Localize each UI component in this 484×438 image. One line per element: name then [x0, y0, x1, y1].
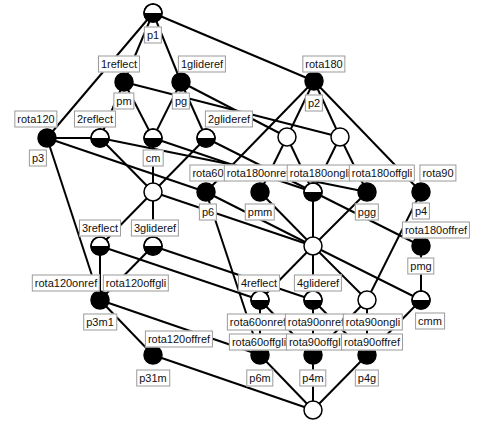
node-label: p31m	[136, 370, 170, 387]
node-half[interactable]	[144, 4, 162, 22]
node-label: rota90offref	[341, 334, 403, 351]
node-label: p4m	[299, 370, 326, 387]
node-label: rota120	[14, 111, 57, 128]
node-label: rota90	[419, 165, 456, 182]
node-label: pmm	[245, 204, 275, 221]
node-label: p2	[305, 95, 323, 112]
node-label: pmg	[407, 258, 434, 275]
node-black[interactable]	[197, 183, 215, 201]
node-black[interactable]	[91, 291, 109, 309]
node-black[interactable]	[38, 129, 56, 147]
node-label: p4	[412, 203, 430, 220]
node-white[interactable]	[304, 237, 322, 255]
node-white[interactable]	[331, 128, 349, 146]
node-half[interactable]	[91, 237, 109, 255]
node-label: p3m1	[83, 314, 117, 331]
node-label: rota90onref	[285, 314, 347, 331]
node-label: p1	[144, 27, 162, 44]
node-label: 1reflect	[98, 56, 140, 73]
node-label: pm	[113, 93, 134, 110]
node-half[interactable]	[304, 291, 322, 309]
node-half[interactable]	[412, 291, 430, 309]
edge	[153, 355, 313, 410]
node-label: 1glideref	[178, 56, 226, 73]
node-label: rota60	[189, 165, 226, 182]
node-label: rota90offgli	[286, 334, 346, 351]
node-black[interactable]	[251, 183, 269, 201]
node-label: rota180offref	[402, 222, 470, 239]
node-label: 2reflect	[74, 111, 116, 128]
node-white[interactable]	[304, 401, 322, 419]
node-half[interactable]	[144, 129, 162, 147]
node-label: rota60onref	[227, 314, 289, 331]
node-black[interactable]	[358, 183, 376, 201]
node-label: p3	[29, 150, 47, 167]
node-half[interactable]	[91, 129, 109, 147]
node-label: p6m	[246, 370, 273, 387]
node-black[interactable]	[305, 72, 323, 90]
node-half[interactable]	[144, 237, 162, 255]
node-label: rota180onref	[224, 165, 292, 182]
node-label: rota60offgli	[229, 334, 289, 351]
node-label: pgg	[355, 204, 379, 221]
node-black[interactable]	[144, 346, 162, 364]
node-label: p6	[199, 204, 217, 221]
edge	[313, 246, 367, 300]
node-half[interactable]	[304, 183, 322, 201]
node-white[interactable]	[358, 291, 376, 309]
node-black[interactable]	[115, 73, 133, 91]
node-black[interactable]	[172, 73, 190, 91]
node-label: 2glideref	[205, 111, 253, 128]
node-white[interactable]	[278, 128, 296, 146]
node-label: cm	[143, 150, 164, 167]
node-white[interactable]	[144, 183, 162, 201]
node-label: rota180offgli	[349, 165, 415, 182]
node-black[interactable]	[412, 237, 430, 255]
node-label: cmm	[415, 313, 445, 330]
node-label: p4g	[355, 370, 379, 387]
node-label: 3reflect	[79, 220, 121, 237]
node-half[interactable]	[251, 291, 269, 309]
node-label: rota120onref	[32, 275, 100, 292]
node-half[interactable]	[197, 129, 215, 147]
node-label: pg	[172, 93, 190, 110]
node-label: rota120offref	[145, 331, 213, 348]
node-label: 3glideref	[131, 220, 179, 237]
node-black[interactable]	[412, 183, 430, 201]
edge	[181, 82, 287, 137]
node-label: rota180	[302, 56, 345, 73]
node-label: rota120offgli	[103, 275, 169, 292]
node-label: rota180ongli	[287, 165, 354, 182]
node-label: rota90ongli	[343, 314, 403, 331]
node-label: 4glideref	[294, 275, 342, 292]
node-label: 4reflect	[238, 275, 280, 292]
